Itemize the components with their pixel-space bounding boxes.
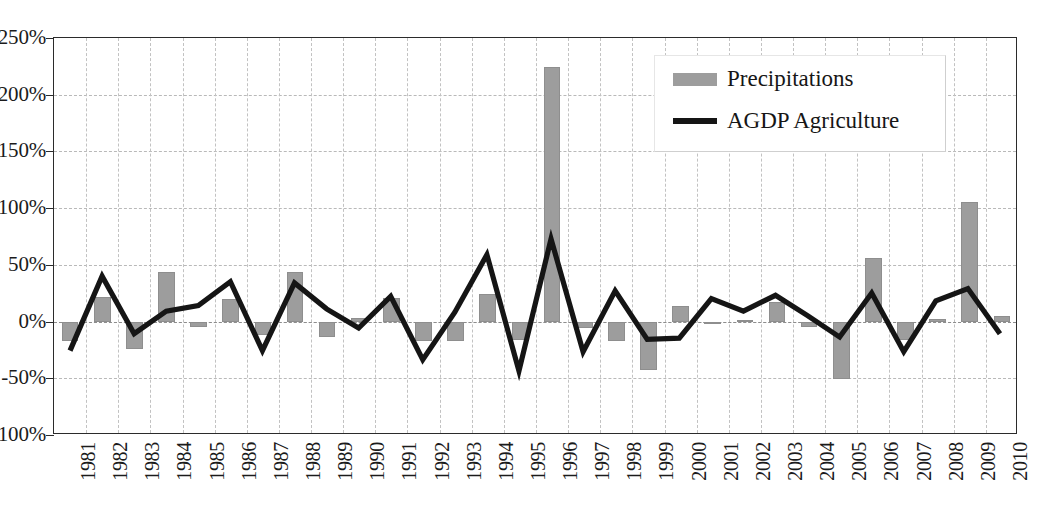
- x-tick-label: 2000: [688, 442, 711, 481]
- x-tick-label: 2010: [1009, 442, 1032, 481]
- x-tick-label: 2008: [945, 442, 968, 481]
- x-tick-label: 1998: [623, 442, 646, 481]
- x-tick-label: 1989: [334, 442, 357, 481]
- x-tick-label: 2007: [913, 442, 936, 481]
- x-tick-label: 1999: [655, 442, 678, 481]
- y-axis-labels: 250%200%150%100%50%0%-50%-100%: [0, 0, 52, 529]
- x-tick-label: 1992: [431, 442, 454, 481]
- legend-bar-swatch-icon: [673, 73, 717, 86]
- x-axis-labels: 1981198219831984198519861987198819891990…: [53, 434, 1017, 529]
- x-tick-label: 1991: [398, 442, 421, 481]
- x-tick-label: 1983: [141, 442, 164, 481]
- x-tick-label: 1995: [527, 442, 550, 481]
- x-tick-label: 1985: [206, 442, 229, 481]
- agdp-polyline: [70, 239, 1000, 371]
- x-tick-label: 2001: [720, 442, 743, 481]
- y-tick-mark: [46, 38, 54, 39]
- x-tick-label: 2009: [977, 442, 1000, 481]
- y-tick-label: 0%: [18, 308, 46, 333]
- x-tick-label: 1993: [463, 442, 486, 481]
- x-tick-label: 1984: [173, 442, 196, 481]
- x-tick-label: 2002: [752, 442, 775, 481]
- x-tick-label: 1997: [591, 442, 614, 481]
- x-tick-label: 1994: [495, 442, 518, 481]
- y-tick-mark: [46, 322, 54, 323]
- x-tick-label: 1988: [302, 442, 325, 481]
- y-tick-label: 50%: [8, 251, 46, 276]
- x-tick-label: 2005: [848, 442, 871, 481]
- y-tick-mark: [46, 151, 54, 152]
- y-tick-label: 250%: [0, 25, 46, 50]
- x-tick-label: 1981: [77, 442, 100, 481]
- x-tick-label: 2004: [816, 442, 839, 481]
- legend-line-swatch-icon: [673, 118, 717, 124]
- legend-label-agdp-agriculture: AGDP Agriculture: [727, 108, 899, 134]
- y-tick-mark: [46, 265, 54, 266]
- x-tick-label: 1990: [366, 442, 389, 481]
- y-tick-label: -100%: [0, 422, 46, 447]
- x-tick-label: 2003: [784, 442, 807, 481]
- x-tick-label: 1982: [109, 442, 132, 481]
- legend-item-precipitations: Precipitations: [673, 66, 853, 92]
- chart-figure: 250%200%150%100%50%0%-50%-100% 198119821…: [0, 0, 1039, 529]
- legend-label-precipitations: Precipitations: [727, 66, 853, 92]
- x-tick-label: 1986: [238, 442, 261, 481]
- chart-legend: Precipitations AGDP Agriculture: [654, 55, 946, 152]
- x-tick-label: 1996: [559, 442, 582, 481]
- x-tick-label: 2006: [880, 442, 903, 481]
- y-tick-mark: [46, 95, 54, 96]
- y-tick-label: 150%: [0, 138, 46, 163]
- y-tick-mark: [46, 378, 54, 379]
- y-tick-label: 100%: [0, 195, 46, 220]
- y-tick-label: 200%: [0, 81, 46, 106]
- legend-item-agdp-agriculture: AGDP Agriculture: [673, 108, 899, 134]
- y-tick-mark: [46, 208, 54, 209]
- x-tick-label: 1987: [270, 442, 293, 481]
- y-tick-label: -50%: [1, 365, 46, 390]
